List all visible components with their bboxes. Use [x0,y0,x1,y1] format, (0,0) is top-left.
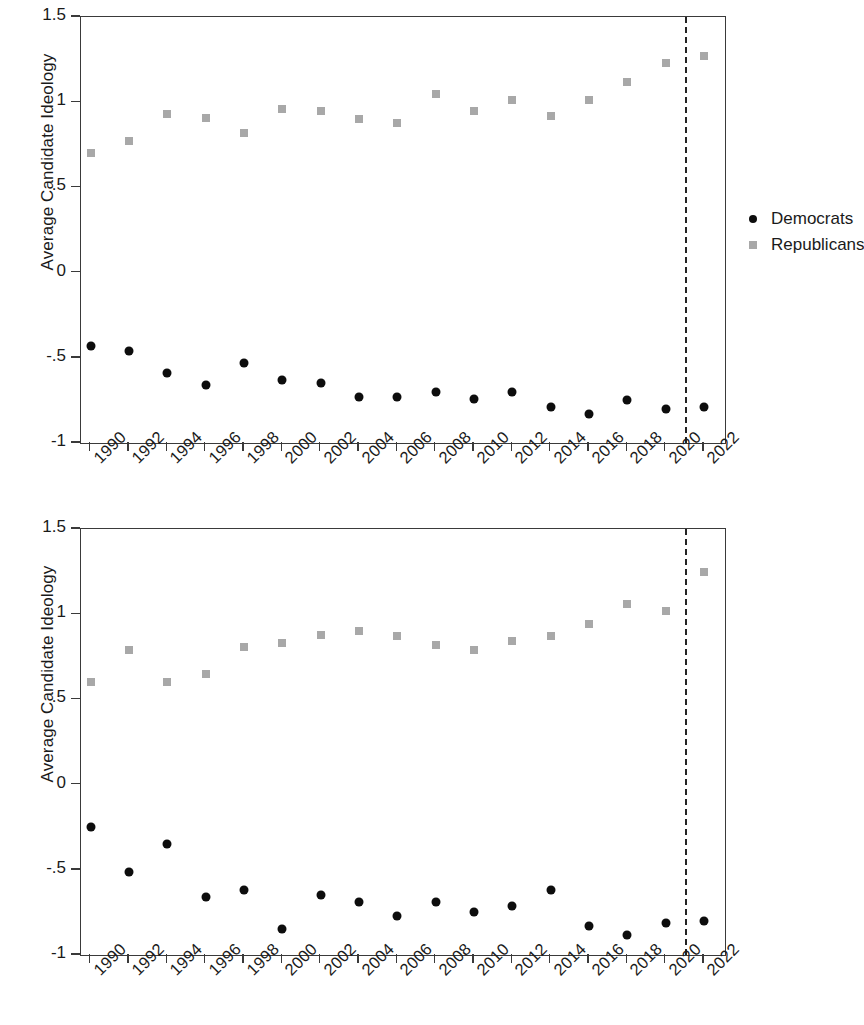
x-axis-tick-mark [434,442,435,451]
data-point-democrats-1990 [86,341,95,350]
x-axis-tick-mark [204,954,205,963]
data-point-democrats-1990 [86,823,95,832]
x-axis-tick-mark [166,442,167,451]
data-point-democrats-2014 [546,403,555,412]
data-point-democrats-1992 [124,867,133,876]
data-point-republicans-2016 [585,620,593,628]
data-point-republicans-1998 [240,643,248,651]
reference-line [685,17,687,443]
data-point-democrats-2004 [354,898,363,907]
plot-area-top [80,16,726,444]
data-point-republicans-1996 [202,670,210,678]
data-point-republicans-2010 [470,646,478,654]
data-point-democrats-2000 [278,375,287,384]
y-axis-tick-mark [71,613,80,614]
x-axis-tick-mark [127,954,128,963]
data-point-republicans-2000 [278,105,286,113]
x-axis-tick-mark [549,442,550,451]
data-point-republicans-2010 [470,107,478,115]
data-point-republicans-1990 [87,149,95,157]
x-axis-tick-mark [319,442,320,451]
y-axis-tick-label: 1.5 [42,517,66,537]
data-point-democrats-1994 [163,369,172,378]
x-axis-tick-mark [204,442,205,451]
y-axis-tick-label: 1 [57,602,66,622]
data-point-republicans-1994 [163,110,171,118]
x-axis-tick-mark [166,954,167,963]
figure-container: Average Candidate Ideology Democrats Rep… [0,0,864,1025]
data-point-republicans-1996 [202,114,210,122]
data-point-democrats-2008 [431,387,440,396]
data-point-democrats-2020 [661,404,670,413]
data-point-republicans-2004 [355,115,363,123]
y-axis-tick-mark [71,783,80,784]
legend-top: Democrats Republicans [742,206,864,258]
data-point-democrats-2022 [699,916,708,925]
x-axis-tick-mark [89,442,90,451]
x-axis-tick-mark [664,442,665,451]
republicans-marker-icon [742,241,764,249]
y-axis-tick-mark [71,698,80,699]
x-axis-tick-mark [549,954,550,963]
data-point-republicans-2012 [508,96,516,104]
y-axis-tick-mark [71,356,80,357]
x-axis-tick-mark [396,442,397,451]
reference-line [685,529,687,955]
y-axis-tick-label: 0 [57,773,66,793]
data-point-republicans-2022 [700,52,708,60]
data-point-republicans-2004 [355,627,363,635]
y-axis-tick-label: 1 [57,90,66,110]
data-point-republicans-1992 [125,137,133,145]
y-axis-tick-label: .5 [52,687,66,707]
democrats-marker-icon [742,215,764,223]
y-axis-tick-mark [71,15,80,16]
y-axis-tick-label: -1 [51,943,66,963]
data-point-democrats-2002 [316,891,325,900]
data-point-republicans-2012 [508,637,516,645]
x-axis-tick-mark [357,442,358,451]
y-axis-tick-mark [71,271,80,272]
y-axis-tick-label: -.5 [46,858,66,878]
data-point-republicans-1992 [125,646,133,654]
data-point-democrats-1998 [239,358,248,367]
y-axis-tick-mark [71,953,80,954]
data-point-republicans-2018 [623,78,631,86]
x-axis-tick-mark [127,442,128,451]
x-axis-tick-mark [242,954,243,963]
y-axis-tick-mark [71,527,80,528]
y-axis-tick-mark [71,868,80,869]
x-axis-tick-mark [511,442,512,451]
data-point-democrats-2002 [316,379,325,388]
legend-label-democrats: Democrats [771,209,853,229]
x-axis-tick-mark [319,954,320,963]
data-point-republicans-2020 [662,59,670,67]
data-point-democrats-2016 [584,922,593,931]
x-axis-tick-mark [702,442,703,451]
data-point-republicans-1994 [163,678,171,686]
data-point-republicans-2006 [393,119,401,127]
data-point-republicans-2008 [432,90,440,98]
data-point-democrats-1998 [239,886,248,895]
chart-panel-bottom: Average Candidate Ideology Democrats Rep… [0,512,864,1025]
y-axis-tick-label: -.5 [46,346,66,366]
y-axis-tick-label: 1.5 [42,5,66,25]
data-point-republicans-2018 [623,600,631,608]
data-point-republicans-2002 [317,631,325,639]
data-point-democrats-2010 [469,908,478,917]
data-point-democrats-2010 [469,394,478,403]
y-axis-tick-mark [71,441,80,442]
y-axis-title: Average Candidate Ideology [38,534,58,814]
y-axis-tick-label: 0 [57,261,66,281]
legend-item-democrats[interactable]: Democrats [742,206,864,232]
data-point-democrats-2000 [278,925,287,934]
data-point-republicans-2014 [547,112,555,120]
x-axis-tick-mark [472,442,473,451]
y-axis-tick-mark [71,186,80,187]
x-axis-tick-mark [626,954,627,963]
x-axis-tick-mark [281,954,282,963]
data-point-democrats-1996 [201,381,210,390]
data-point-democrats-2018 [623,396,632,405]
x-axis-tick-mark [587,954,588,963]
legend-item-republicans[interactable]: Republicans [742,232,864,258]
x-axis-tick-mark [511,954,512,963]
